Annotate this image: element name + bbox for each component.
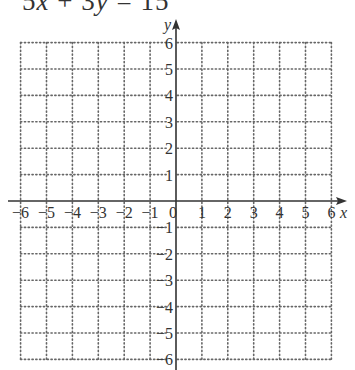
y-axis-label: y — [162, 16, 172, 34]
y-tick-label: −1 — [156, 219, 173, 236]
x-tick-label: −2 — [116, 204, 133, 221]
x-tick-label: 5 — [302, 204, 310, 221]
y-tick-label: −3 — [156, 272, 173, 289]
y-tick-label: 4 — [165, 87, 173, 104]
y-tick-label: 3 — [165, 114, 173, 131]
y-tick-label: 5 — [165, 61, 173, 78]
x-tick-label: −3 — [90, 204, 107, 221]
x-tick-label: −6 — [12, 204, 29, 221]
x-tick-label: 4 — [276, 204, 284, 221]
x-tick-label: 3 — [250, 204, 258, 221]
x-tick-label: 6 — [327, 204, 335, 221]
x-tick-label: 1 — [198, 204, 206, 221]
y-tick-label: 6 — [165, 35, 173, 52]
x-tick-label: −5 — [38, 204, 55, 221]
x-tick-label: 2 — [224, 204, 232, 221]
y-tick-label: −2 — [156, 246, 173, 263]
y-tick-label: −4 — [156, 299, 173, 316]
y-tick-label: −6 — [156, 351, 173, 368]
coordinate-grid: xy−6−5−4−3−2−10123456123456−1−2−3−4−5−6 — [0, 0, 355, 370]
y-tick-label: −5 — [156, 325, 173, 342]
x-tick-label: −4 — [64, 204, 81, 221]
y-tick-label: 1 — [165, 167, 173, 184]
y-tick-label: 2 — [165, 140, 173, 157]
x-axis-label: x — [339, 204, 347, 221]
